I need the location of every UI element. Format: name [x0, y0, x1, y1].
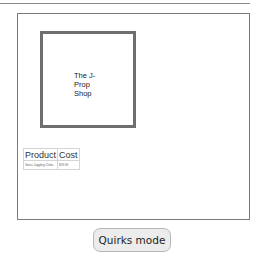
shop-name-line: Shop: [74, 89, 104, 98]
table-header-row: Product Cost: [24, 149, 80, 161]
shop-name: The J- Prop Shop: [74, 71, 104, 98]
cost-cell: $29.99: [58, 161, 80, 170]
shop-name-line: The J-: [74, 71, 104, 80]
product-cell: Swiss Juggling Clubs: [24, 161, 58, 170]
shop-logo-box: The J- Prop Shop: [40, 31, 136, 128]
product-table: Product Cost Swiss Juggling Clubs $29.99: [23, 148, 80, 170]
column-header-cost: Cost: [58, 149, 80, 161]
page-frame: The J- Prop Shop Product Cost Swiss Jugg…: [17, 13, 250, 220]
top-divider: [0, 3, 250, 4]
quirks-mode-button[interactable]: Quirks mode: [93, 228, 171, 252]
shop-name-line: Prop: [74, 80, 104, 89]
table-row: Swiss Juggling Clubs $29.99: [24, 161, 80, 170]
column-header-product: Product: [24, 149, 58, 161]
